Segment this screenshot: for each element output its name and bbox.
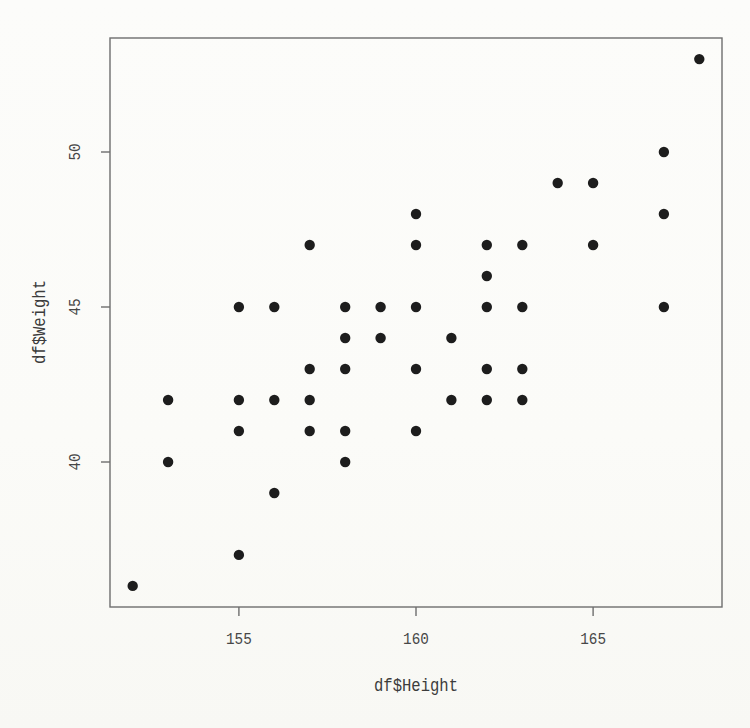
- y-tick-label: 40: [66, 453, 85, 470]
- y-axis-ticks: 404550: [66, 143, 110, 470]
- data-point: [305, 240, 315, 250]
- data-point: [305, 426, 315, 436]
- data-point: [517, 395, 527, 405]
- data-point: [234, 395, 244, 405]
- data-point: [446, 395, 456, 405]
- data-point: [446, 333, 456, 343]
- data-point: [234, 302, 244, 312]
- x-axis-label: df$Height: [374, 675, 458, 697]
- data-point: [375, 333, 385, 343]
- y-tick-label: 45: [66, 298, 85, 315]
- data-point: [163, 395, 173, 405]
- data-point: [482, 302, 492, 312]
- data-point: [659, 147, 669, 157]
- y-tick-label: 50: [66, 143, 85, 160]
- data-point: [517, 302, 527, 312]
- data-point: [305, 395, 315, 405]
- data-point: [340, 333, 350, 343]
- data-point: [482, 395, 492, 405]
- data-point: [269, 395, 279, 405]
- x-tick-label: 160: [403, 630, 429, 649]
- data-point: [375, 302, 385, 312]
- x-tick-label: 165: [580, 630, 606, 649]
- y-axis-label: df$Weight: [29, 280, 51, 364]
- data-point: [411, 209, 421, 219]
- x-tick-label: 155: [226, 630, 252, 649]
- data-point: [234, 550, 244, 560]
- data-point: [411, 302, 421, 312]
- data-point: [411, 240, 421, 250]
- data-points: [128, 54, 705, 591]
- plot-box: [110, 38, 722, 607]
- scatter-plot-figure: 155160165 404550 df$Height df$Weight: [0, 0, 750, 728]
- data-point: [128, 581, 138, 591]
- data-point: [659, 209, 669, 219]
- data-point: [482, 240, 492, 250]
- data-point: [588, 178, 598, 188]
- scatter-plot: 155160165 404550 df$Height df$Weight: [0, 0, 750, 728]
- data-point: [269, 488, 279, 498]
- data-point: [340, 426, 350, 436]
- data-point: [553, 178, 563, 188]
- data-point: [694, 54, 704, 64]
- data-point: [411, 426, 421, 436]
- data-point: [588, 240, 598, 250]
- data-point: [411, 364, 421, 374]
- data-point: [340, 364, 350, 374]
- data-point: [269, 302, 279, 312]
- data-point: [163, 457, 173, 467]
- data-point: [234, 426, 244, 436]
- data-point: [482, 271, 492, 281]
- data-point: [659, 302, 669, 312]
- data-point: [340, 302, 350, 312]
- data-point: [340, 457, 350, 467]
- data-point: [305, 364, 315, 374]
- data-point: [517, 240, 527, 250]
- data-point: [517, 364, 527, 374]
- x-axis-ticks: 155160165: [226, 607, 606, 649]
- data-point: [482, 364, 492, 374]
